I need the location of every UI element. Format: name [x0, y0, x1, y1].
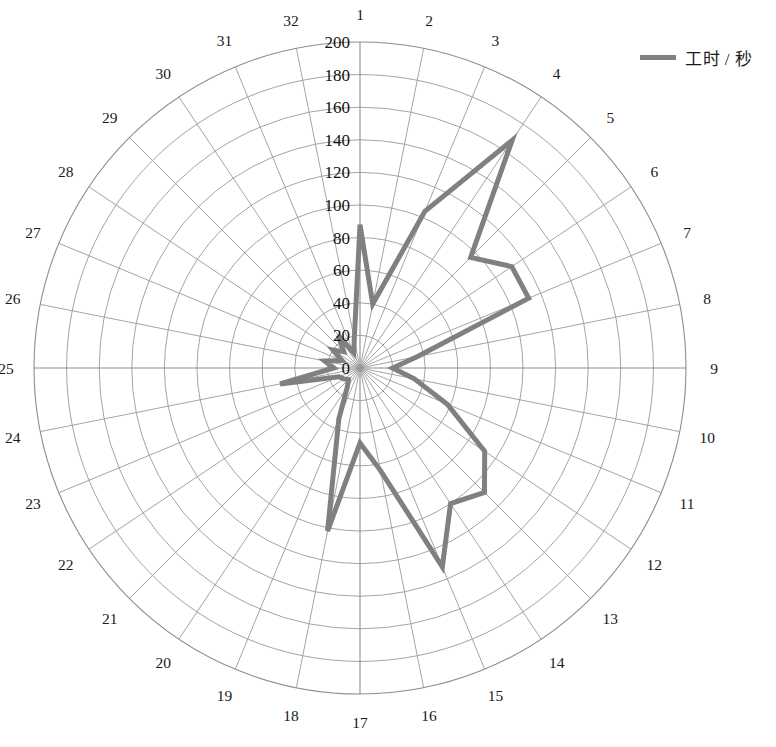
radial-tick-180: 180	[325, 66, 351, 85]
category-label-21: 21	[102, 610, 118, 627]
category-label-17: 17	[352, 714, 368, 731]
category-label-28: 28	[58, 163, 74, 180]
grid-spoke-15	[360, 368, 485, 669]
grid-spoke-21	[129, 368, 360, 599]
radial-tick-80: 80	[333, 229, 350, 248]
category-label-8: 8	[703, 290, 711, 307]
radial-tick-100: 100	[325, 196, 351, 215]
category-label-5: 5	[606, 109, 614, 126]
radial-tick-20: 20	[333, 326, 350, 345]
series-group	[280, 140, 529, 566]
grid-spoke-23	[59, 368, 360, 493]
category-label-6: 6	[650, 163, 658, 180]
category-label-31: 31	[217, 32, 233, 49]
chart-legend: 工时 / 秒	[640, 45, 752, 70]
category-label-25: 25	[0, 360, 14, 377]
radial-tick-160: 160	[325, 98, 351, 117]
category-label-10: 10	[699, 429, 715, 446]
category-label-11: 11	[680, 495, 695, 512]
legend-line-swatch	[640, 55, 676, 60]
polar-plot-area: 020406080100120140160180200 123456789101…	[0, 0, 776, 747]
category-label-22: 22	[58, 556, 74, 573]
grid-spoke-13	[360, 368, 591, 599]
category-label-24: 24	[5, 429, 21, 446]
category-label-32: 32	[283, 12, 299, 29]
category-label-26: 26	[5, 290, 21, 307]
category-label-13: 13	[603, 610, 619, 627]
grid-spokes	[34, 42, 686, 694]
category-label-23: 23	[25, 495, 41, 512]
category-label-30: 30	[156, 65, 172, 82]
radial-tick-140: 140	[325, 131, 351, 150]
radial-tick-120: 120	[325, 163, 351, 182]
category-label-18: 18	[283, 707, 299, 724]
radial-tick-labels: 020406080100120140160180200	[325, 33, 351, 378]
category-label-27: 27	[25, 224, 41, 241]
category-label-19: 19	[217, 687, 233, 704]
category-label-2: 2	[425, 12, 433, 29]
grid-spoke-11	[360, 368, 661, 493]
radial-tick-60: 60	[333, 261, 350, 280]
radial-tick-40: 40	[333, 294, 350, 313]
category-label-20: 20	[156, 654, 172, 671]
category-label-9: 9	[710, 360, 718, 377]
legend-entry-label: 工时 / 秒	[685, 45, 752, 70]
category-label-1: 1	[356, 6, 364, 23]
category-label-12: 12	[647, 556, 663, 573]
grid-spoke-27	[59, 243, 360, 368]
category-label-16: 16	[421, 707, 437, 724]
category-label-14: 14	[549, 654, 565, 671]
radial-tick-0: 0	[342, 359, 351, 378]
category-label-15: 15	[488, 687, 504, 704]
category-label-3: 3	[492, 32, 500, 49]
polar-chart: 020406080100120140160180200 123456789101…	[0, 0, 776, 747]
series-path-0	[280, 140, 529, 566]
radial-tick-200: 200	[325, 33, 351, 52]
category-label-4: 4	[553, 65, 561, 82]
category-label-29: 29	[102, 109, 118, 126]
category-label-7: 7	[683, 224, 691, 241]
